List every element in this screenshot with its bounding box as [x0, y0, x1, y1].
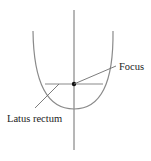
focus-leader-line [74, 66, 116, 84]
parabola-diagram: Focus Latus rectum [0, 0, 151, 161]
focus-label: Focus [119, 61, 144, 72]
parabola-curve [33, 31, 113, 109]
latus-rectum-leader-line [35, 84, 59, 108]
latus-rectum-label: Latus rectum [7, 113, 62, 124]
